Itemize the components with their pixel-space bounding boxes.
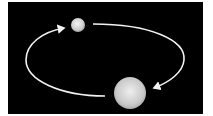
large-body — [114, 77, 146, 109]
orbit-arc-right — [93, 24, 184, 88]
small-body — [71, 18, 85, 32]
orbit-diagram — [0, 0, 213, 116]
orbit-arc-left — [26, 28, 105, 96]
